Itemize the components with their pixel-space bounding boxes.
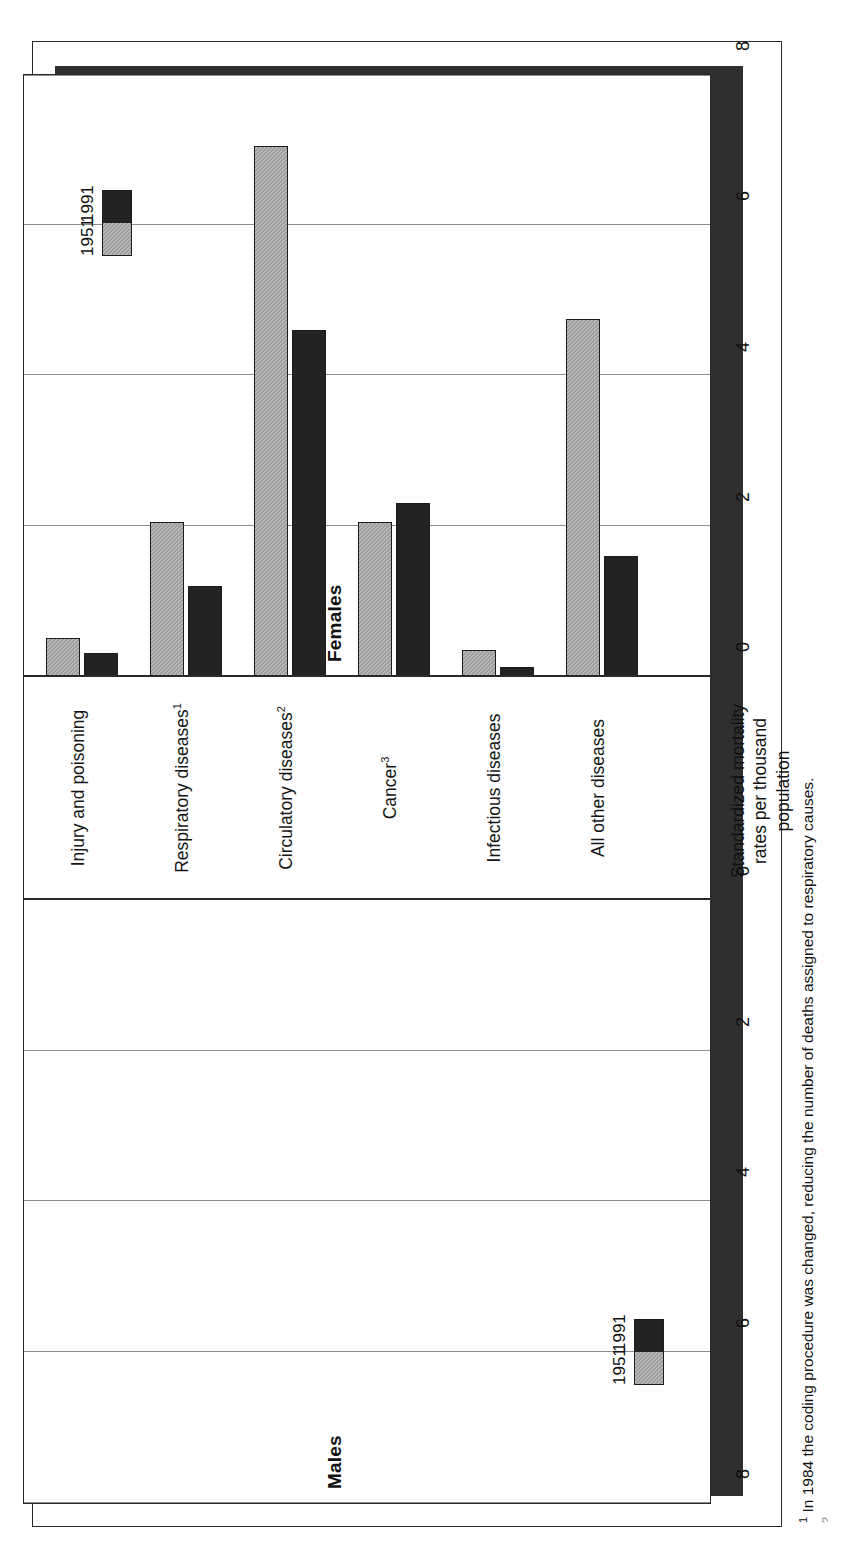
bar-females-1991-0 [84, 654, 118, 677]
legend-label-1991-males: 1991 [610, 1319, 630, 1352]
tick-females-8: 8 [733, 31, 754, 61]
bar-females-1991-5 [604, 556, 638, 676]
footnotes: 1 In 1984 the coding procedure was chang… [796, 43, 828, 1523]
bar-males-1991-4 [500, 1503, 534, 1504]
footnote-1-marker: 1 [797, 1517, 809, 1523]
tick-males-6: 6 [733, 1308, 754, 1338]
bar-females-1951-5 [566, 319, 600, 676]
category-text-0: Injury and poisoning [68, 710, 88, 867]
gridline-females-8 [24, 75, 710, 76]
category-label-1: Respiratory diseases1 [172, 676, 193, 900]
bar-males-1991-2 [292, 1503, 326, 1504]
panel-title-females: Females [324, 585, 346, 662]
gridline-females-4 [24, 375, 710, 376]
category-text-3: Cancer [380, 763, 400, 819]
axis-caption-line1: Standardized mortality [727, 691, 749, 891]
category-sup-1: 1 [171, 703, 183, 709]
panel-title-males: Males [324, 1435, 346, 1489]
category-label-0: Injury and poisoning [68, 676, 89, 900]
legend-swatches-females [102, 190, 132, 256]
tick-males-4: 4 [733, 1157, 754, 1187]
bar-females-1951-0 [46, 638, 80, 676]
category-label-4: Infectious diseases [484, 676, 505, 900]
category-label-2: Circulatory diseases2 [276, 676, 297, 900]
tick-females-2: 2 [733, 482, 754, 512]
legend-swatch-1951-males [635, 1352, 663, 1384]
category-text-2: Circulatory diseases [276, 712, 296, 870]
bar-males-1951-4 [462, 1503, 496, 1504]
bar-males-1951-3 [358, 1503, 392, 1504]
category-text-4: Infectious diseases [484, 714, 504, 863]
bar-males-1991-3 [396, 1503, 430, 1504]
footnote-2-clipped: 2 [819, 43, 828, 1523]
panel-category-labels: Injury and poisoning Respiratory disease… [24, 676, 710, 900]
bar-females-1951-4 [462, 650, 496, 676]
footnote-1-text: In 1984 the coding procedure was changed… [799, 778, 816, 1513]
legend-label-1951-males: 1951 [610, 1352, 630, 1385]
panel-males: Males [24, 900, 710, 1503]
legend-females: 1951 1991 [102, 190, 132, 256]
category-sup-2: 2 [275, 706, 287, 712]
axis-caption-line3: population [772, 691, 794, 891]
category-label-3: Cancer3 [380, 676, 401, 900]
category-sup-3: 3 [379, 757, 391, 763]
bar-females-1991-3 [396, 503, 430, 676]
bar-males-1951-1 [150, 1503, 184, 1504]
panel-divider-left [24, 899, 710, 901]
bar-males-1951-2 [254, 1503, 288, 1504]
bar-females-1991-1 [188, 586, 222, 676]
legend-males: 1951 1991 [634, 1319, 664, 1385]
bar-females-1991-2 [292, 330, 326, 676]
footnote-2-marker: 2 [820, 1517, 828, 1523]
legend-swatch-1991-males [635, 1320, 663, 1352]
legend-labels-females: 1951 1991 [78, 190, 98, 256]
legend-swatches-males [634, 1319, 664, 1385]
legend-label-1991-females: 1991 [78, 190, 98, 223]
legend-label-1951-females: 1951 [78, 223, 98, 256]
category-text-1: Respiratory diseases [172, 709, 192, 872]
panel-divider-right [24, 676, 710, 678]
bar-males-1991-0 [84, 1503, 118, 1504]
figure-frame: Males [32, 41, 782, 1527]
bar-males-1991-5 [604, 1503, 638, 1504]
panel-females: Females [24, 75, 710, 676]
tick-females-6: 6 [733, 181, 754, 211]
bar-males-1991-1 [188, 1503, 222, 1504]
category-label-5: All other diseases [588, 676, 609, 900]
tick-females-4: 4 [733, 332, 754, 362]
bar-males-1951-0 [46, 1503, 80, 1504]
bar-females-1951-1 [150, 522, 184, 676]
tick-males-8: 8 [733, 1459, 754, 1489]
category-text-5: All other diseases [588, 719, 608, 857]
footnote-1: 1 In 1984 the coding procedure was chang… [796, 43, 819, 1523]
tick-females-0: 0 [733, 632, 754, 662]
axis-caption: Standardized mortality rates per thousan… [727, 691, 794, 891]
bar-females-1951-3 [358, 522, 392, 676]
plot-area: Males [23, 74, 711, 1504]
bar-females-1951-2 [254, 146, 288, 676]
legend-swatch-1951-females [103, 223, 131, 255]
bar-males-1951-5 [566, 1503, 600, 1504]
rotated-page: Males [0, 0, 847, 1545]
gridline-males-2 [24, 1050, 710, 1051]
legend-labels-males: 1951 1991 [610, 1319, 630, 1385]
axis-caption-line2: rates per thousand [749, 691, 771, 891]
gridline-males-6 [24, 1351, 710, 1352]
tick-males-2: 2 [733, 1007, 754, 1037]
gridline-males-4 [24, 1201, 710, 1202]
legend-swatch-1991-females [103, 191, 131, 223]
